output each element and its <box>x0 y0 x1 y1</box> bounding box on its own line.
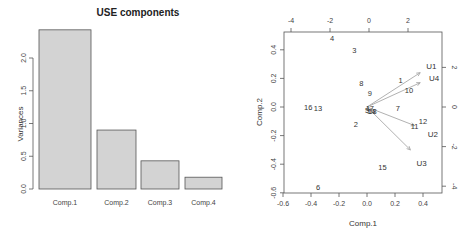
point-label: 2 <box>354 120 358 129</box>
point-label: 1 <box>399 76 403 85</box>
point-label: 8 <box>359 79 363 88</box>
y-tick-label: 0.4 <box>270 45 277 55</box>
y-tick-label: 1.5 <box>20 86 27 96</box>
top-tick-label: 0 <box>367 17 371 24</box>
loading-arrows: U1U4U2U3 <box>367 62 440 168</box>
pca-biplot: -0.6-0.4-0.20.00.20.4-0.6-0.4-0.20.00.20… <box>255 17 458 228</box>
bars <box>39 30 222 189</box>
loading-label: U2 <box>428 130 439 139</box>
loading-label: U4 <box>429 74 440 83</box>
point-label: 18 <box>368 107 376 116</box>
point-label: 12 <box>419 117 427 126</box>
top-tick-label: -2 <box>327 17 333 24</box>
chart-title: USE components <box>97 7 180 18</box>
loading-label: U1 <box>426 62 437 71</box>
right-tick-label: -4 <box>451 183 458 189</box>
right-tick-label: 2 <box>451 65 458 69</box>
point-label: 16 <box>304 103 312 112</box>
x-tick-label: Comp.4 <box>191 199 216 207</box>
bar-comp-1 <box>39 30 91 189</box>
x-tick-label: 0.0 <box>362 200 372 207</box>
y-tick-label: 0.0 <box>20 184 27 194</box>
point-label: 9 <box>368 89 372 98</box>
right-tick-label: -2 <box>451 143 458 149</box>
x-axis-label: Comp.1 <box>349 219 378 228</box>
x-tick-label: Comp.1 <box>53 199 78 207</box>
scree-bar-chart: USE components 0.00.51.01.52.0 Variances… <box>16 7 222 207</box>
x-tick-label: -0.2 <box>333 200 345 207</box>
point-label: 15 <box>378 163 386 172</box>
x-tick-labels: Comp.1Comp.2Comp.3Comp.4 <box>53 199 216 207</box>
y-tick-label: 0.2 <box>270 73 277 83</box>
bar-comp-2 <box>97 130 136 189</box>
point-label: 7 <box>396 104 400 113</box>
point-label: 3 <box>352 46 356 55</box>
y-tick-label: -0.6 <box>270 187 277 199</box>
right-tick-label: 0 <box>451 105 458 109</box>
loading-label: U3 <box>416 159 427 168</box>
observation-labels: 123456789101112131415161718 <box>304 34 427 192</box>
top-tick-label: 2 <box>406 17 410 24</box>
y-axis-label: Variances <box>16 107 25 142</box>
point-label: 4 <box>330 34 334 43</box>
y-tick-label: 0.0 <box>270 102 277 112</box>
bar-comp-4 <box>185 177 222 189</box>
x-tick-label: -0.6 <box>277 200 289 207</box>
point-label: 11 <box>411 122 419 131</box>
x-tick-label: Comp.3 <box>148 199 173 207</box>
chart-canvas: USE components 0.00.51.01.52.0 Variances… <box>0 0 471 239</box>
x-tick-label: 0.2 <box>390 200 400 207</box>
y-tick-label: 2.0 <box>20 53 27 63</box>
y-tick-label: 0.5 <box>20 151 27 161</box>
point-label: 6 <box>316 183 320 192</box>
y-tick-label: -0.2 <box>270 129 277 141</box>
y-axis-label: Comp.2 <box>255 97 264 126</box>
y-tick-label: -0.4 <box>270 158 277 170</box>
top-tick-label: -4 <box>288 17 294 24</box>
point-label: 10 <box>405 86 413 95</box>
x-tick-label: -0.4 <box>305 200 317 207</box>
bar-comp-3 <box>141 161 179 189</box>
x-tick-label: Comp.2 <box>104 199 129 207</box>
plot-frame <box>284 32 442 193</box>
x-tick-label: 0.4 <box>418 200 428 207</box>
point-label: 13 <box>314 104 322 113</box>
